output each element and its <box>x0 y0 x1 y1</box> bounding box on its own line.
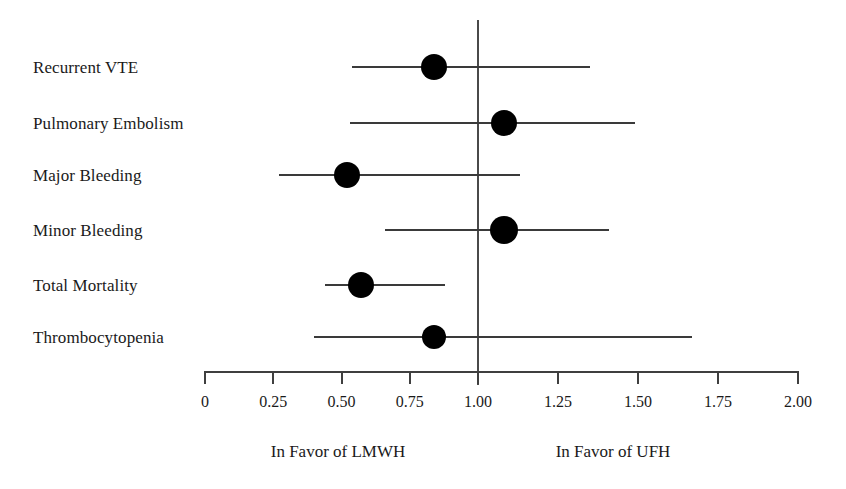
point-estimate-marker <box>348 272 374 298</box>
point-estimate-marker <box>490 216 518 244</box>
row-label: Major Bleeding <box>33 167 142 184</box>
axis-tick-label: 1.50 <box>624 394 652 410</box>
point-estimate-marker <box>421 54 447 80</box>
axis-tick-label: 1.00 <box>464 394 492 410</box>
row-label: Thrombocytopenia <box>33 329 164 346</box>
axis-tick-label: 2.00 <box>784 394 812 410</box>
axis-tick-label: 0.75 <box>396 394 424 410</box>
point-estimate-marker <box>422 325 446 349</box>
point-estimate-marker <box>334 162 360 188</box>
axis-tick <box>272 371 274 384</box>
confidence-interval-line <box>325 284 445 286</box>
reference-line-at-1 <box>477 20 479 385</box>
forest-plot: Recurrent VTEPulmonary EmbolismMajor Ble… <box>0 0 846 489</box>
row-label: Recurrent VTE <box>33 59 138 76</box>
axis-tick <box>797 371 799 384</box>
axis-tick <box>637 371 639 384</box>
axis-tick <box>717 371 719 384</box>
axis-tick-label: 0.25 <box>259 394 287 410</box>
axis-tick <box>204 371 206 384</box>
axis-tick <box>409 371 411 384</box>
confidence-interval-line <box>314 336 692 338</box>
confidence-interval-line <box>279 174 520 176</box>
axis-tick <box>557 371 559 384</box>
axis-tick-label: 0.50 <box>328 394 356 410</box>
axis-tick-label: 1.75 <box>704 394 732 410</box>
axis-tick-label: 1.25 <box>544 394 572 410</box>
axis-tick-label: 0 <box>201 394 209 410</box>
confidence-interval-line <box>352 66 590 68</box>
row-label: Total Mortality <box>33 277 138 294</box>
row-label: Minor Bleeding <box>33 222 143 239</box>
row-label: Pulmonary Embolism <box>33 115 184 132</box>
x-axis-baseline <box>205 371 798 373</box>
axis-tick <box>477 371 479 384</box>
favor-right-label: In Favor of UFH <box>556 443 671 460</box>
point-estimate-marker <box>491 110 517 136</box>
favor-left-label: In Favor of LMWH <box>271 443 406 460</box>
axis-tick <box>341 371 343 384</box>
